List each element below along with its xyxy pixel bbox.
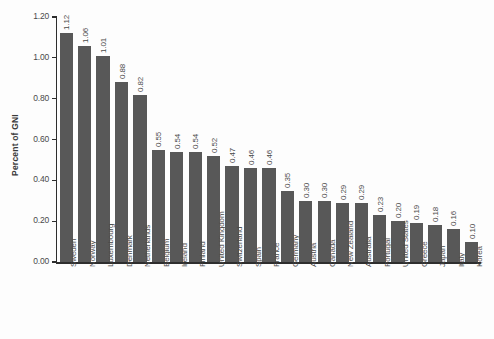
y-tick-label: 1.20 (33, 11, 49, 21)
bar-value-label: 0.30 (301, 180, 310, 200)
bar-value-label: 0.23 (375, 195, 384, 215)
bar-value-label: 0.30 (320, 180, 329, 200)
y-tick-label: 0.80 (33, 93, 49, 103)
bar-value-label: 0.20 (394, 201, 403, 221)
bar-value-label: 1.01 (99, 35, 108, 55)
y-axis-title: Percent of GNI (10, 100, 24, 190)
bar-value-label: 0.52 (209, 135, 218, 155)
bar-chart: Percent of GNI 0.000.200.400.600.801.001… (0, 0, 494, 339)
bar-value-label: 0.29 (357, 182, 366, 202)
bar-value-label: 0.46 (265, 148, 274, 168)
bar-value-label: 0.82 (135, 74, 144, 94)
y-tick-label: 0.40 (33, 174, 49, 184)
bar-value-label: 0.54 (191, 131, 200, 151)
bar-rect (78, 46, 91, 262)
bar-rect (60, 33, 73, 262)
bar-value-label: 1.06 (80, 25, 89, 45)
bar-value-label: 0.29 (338, 182, 347, 202)
y-tick-label: 0.20 (33, 215, 49, 225)
y-tick-label: 0.00 (33, 256, 49, 266)
x-axis-line (56, 262, 481, 264)
bar-value-label: 1.12 (62, 13, 71, 33)
y-tick-label: 1.00 (33, 52, 49, 62)
bar-value-label: 0.46 (246, 148, 255, 168)
bar[interactable] (60, 33, 73, 262)
bar-value-label: 0.16 (449, 209, 458, 229)
bar-value-label: 0.88 (117, 62, 126, 82)
x-axis-category-label: Korea (475, 246, 484, 267)
bar-value-label: 0.19 (412, 203, 421, 223)
bar-value-label: 0.47 (228, 146, 237, 166)
bar-value-label: 0.18 (430, 205, 439, 225)
bar-value-label: 0.55 (154, 129, 163, 149)
bar[interactable] (78, 46, 91, 262)
bar-value-label: 0.10 (467, 221, 476, 241)
y-tick-label: 0.60 (33, 134, 49, 144)
bar-value-label: 0.35 (283, 170, 292, 190)
bar-value-label: 0.54 (172, 131, 181, 151)
